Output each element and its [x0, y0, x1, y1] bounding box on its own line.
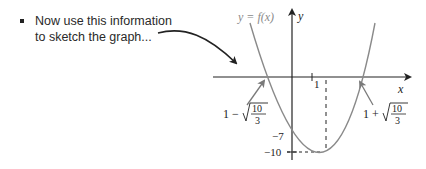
- y-tick-label-m10: −10: [264, 146, 282, 158]
- parabola-curve: [250, 23, 375, 153]
- svg-text:1 +: 1 +: [363, 107, 379, 121]
- pointer-arrow-icon: [158, 31, 236, 63]
- y-axis-label: y: [297, 9, 304, 23]
- svg-text:10: 10: [392, 103, 402, 114]
- graph-sketch: y = f(x) y x 1 −7 −10 1 − 10 3 1 + 10 3: [0, 0, 426, 169]
- root-left-arrow: [247, 81, 264, 105]
- root-right-arrow: [360, 82, 373, 105]
- svg-text:3: 3: [255, 115, 260, 126]
- x-axis-label: x: [397, 82, 404, 96]
- svg-text:10: 10: [252, 103, 262, 114]
- root-left-label: 1 − 10 3: [223, 103, 268, 126]
- curve-label: y = f(x): [237, 10, 274, 24]
- x-tick-label-1: 1: [314, 78, 320, 90]
- svg-text:3: 3: [395, 115, 400, 126]
- svg-text:1 −: 1 −: [223, 107, 239, 121]
- y-tick-label-m7: −7: [272, 130, 284, 142]
- root-right-label: 1 + 10 3: [363, 103, 408, 126]
